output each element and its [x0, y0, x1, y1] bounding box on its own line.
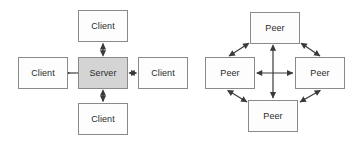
arrow-peer-top-right-diagonal: [302, 44, 321, 57]
node-label: Peer: [263, 112, 282, 121]
arrow-peer-bottom-right-diagonal: [300, 91, 320, 103]
node-client-top[interactable]: Client: [78, 10, 128, 42]
node-label: Server: [89, 69, 116, 78]
node-label: Peer: [310, 69, 329, 78]
node-label: Peer: [220, 69, 239, 78]
node-client-right[interactable]: Client: [138, 57, 188, 89]
node-label: Client: [91, 22, 115, 31]
node-peer-left[interactable]: Peer: [205, 57, 255, 89]
node-server[interactable]: Server: [78, 57, 128, 89]
node-peer-top[interactable]: Peer: [250, 12, 300, 44]
arrow-peer-bottom-left-diagonal: [228, 91, 247, 103]
node-client-bottom[interactable]: Client: [78, 103, 128, 135]
node-peer-bottom[interactable]: Peer: [248, 100, 298, 132]
arrow-peer-top-left-diagonal: [229, 44, 249, 57]
node-label: Client: [151, 69, 175, 78]
node-label: Client: [91, 115, 115, 124]
node-client-left[interactable]: Client: [18, 57, 68, 89]
node-label: Client: [31, 69, 55, 78]
node-label: Peer: [265, 24, 284, 33]
node-peer-right[interactable]: Peer: [295, 57, 345, 89]
